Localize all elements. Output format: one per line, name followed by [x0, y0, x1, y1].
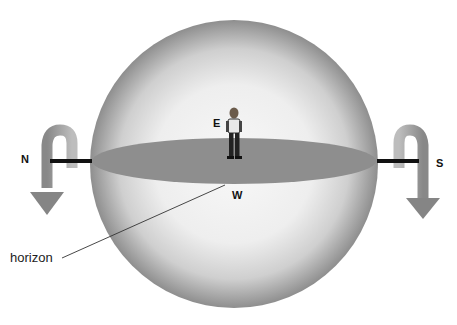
rotation-arrow-north-icon: [30, 130, 72, 215]
rotation-arrow-south-icon: [399, 130, 440, 219]
label-east: E: [213, 117, 220, 129]
celestial-sphere-diagram: [0, 0, 457, 325]
horizon-plane: [92, 138, 376, 184]
label-south: S: [436, 157, 443, 169]
label-north: N: [21, 153, 29, 165]
label-west: W: [232, 189, 242, 201]
label-horizon: horizon: [10, 250, 53, 265]
